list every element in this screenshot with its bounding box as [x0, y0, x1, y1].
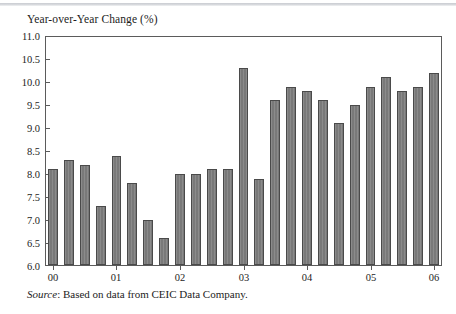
x-axis-label: 00 [48, 272, 59, 283]
bar [302, 91, 312, 265]
source-text: : Based on data from CEIC Data Company. [57, 288, 248, 300]
bar [429, 73, 439, 265]
bar [254, 179, 264, 265]
source-note: Source: Based on data from CEIC Data Com… [27, 288, 248, 300]
bars-layer [46, 37, 441, 266]
bar [207, 169, 217, 265]
top-divider-rule [0, 3, 456, 6]
bar [112, 156, 122, 265]
y-axis-label: 9.0 [0, 123, 40, 134]
x-axis-tick [116, 266, 117, 270]
x-axis-tick [180, 266, 181, 270]
bar [127, 183, 137, 265]
y-axis-label: 6.0 [0, 261, 40, 272]
x-axis-label: 06 [429, 272, 440, 283]
bar [397, 91, 407, 265]
source-keyword: Source [27, 288, 57, 300]
y-axis-label: 9.5 [0, 100, 40, 111]
bar [191, 174, 201, 265]
y-axis-label: 8.5 [0, 146, 40, 157]
bar [350, 105, 360, 265]
x-axis-label: 03 [239, 272, 250, 283]
figure-container: Year-over-Year Change (%) 11.010.510.09.… [0, 0, 456, 314]
x-axis-tick [244, 266, 245, 270]
bar [143, 220, 153, 265]
bar [96, 206, 106, 265]
y-axis-label: 8.0 [0, 169, 40, 180]
chart-axis-title: Year-over-Year Change (%) [27, 13, 158, 25]
y-axis-label: 7.0 [0, 215, 40, 226]
bar [159, 238, 169, 265]
x-axis-tick [371, 266, 372, 270]
bar [286, 87, 296, 265]
x-axis-label: 01 [111, 272, 122, 283]
bar [64, 160, 74, 265]
x-axis-tick [307, 266, 308, 270]
bar [48, 169, 58, 265]
y-axis-label: 10.0 [0, 77, 40, 88]
bar [239, 68, 249, 265]
bar [334, 123, 344, 265]
x-axis-label: 04 [302, 272, 313, 283]
bar [366, 87, 376, 265]
bar [80, 165, 90, 265]
bar [381, 77, 391, 265]
x-axis-label: 05 [366, 272, 377, 283]
bar [223, 169, 233, 265]
x-axis-label: 02 [175, 272, 186, 283]
x-axis-tick [434, 266, 435, 270]
y-axis-label: 6.5 [0, 238, 40, 249]
bar [318, 100, 328, 265]
x-axis-tick [53, 266, 54, 270]
y-axis-label: 10.5 [0, 54, 40, 65]
bar [270, 100, 280, 265]
bar [175, 174, 185, 265]
y-axis-label: 11.0 [0, 31, 40, 42]
y-axis-label: 7.5 [0, 192, 40, 203]
bar [413, 87, 423, 265]
